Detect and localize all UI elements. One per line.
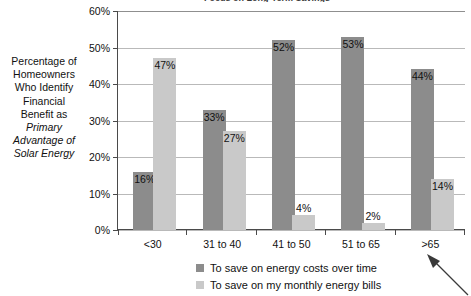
x-axis-label: 51 to 65	[326, 238, 395, 250]
bar-value-label: 4%	[296, 202, 311, 214]
y-axis-title: Percentage of Homeowners Who Identify Fi…	[2, 55, 86, 161]
bar-value-label: 2%	[366, 210, 381, 222]
callout-arrow-icon	[424, 252, 470, 296]
x-axis-label: <30	[118, 238, 187, 250]
bar-group: 33%27%	[187, 11, 256, 230]
y-axis-title-line-8: Solar Energy	[2, 147, 86, 160]
legend-item-0: To save on energy costs over time	[196, 259, 381, 276]
x-axis-label: 41 to 50	[257, 238, 326, 250]
bar[interactable]: 27%	[223, 131, 246, 230]
x-tick-mark	[256, 230, 257, 235]
y-axis-title-line-3: Who Identify	[2, 81, 86, 94]
legend-swatch-icon-1	[196, 281, 204, 289]
bar-value-label: 52%	[273, 41, 294, 53]
chart-legend: To save on energy costs over time To sav…	[196, 259, 381, 293]
bar-group: 53%2%	[326, 11, 395, 230]
x-tick-mark	[464, 230, 465, 235]
bar-chart: Focus on Long-Term Savings Percentage of…	[0, 0, 471, 296]
y-axis-title-line-2: Homeowners	[2, 68, 86, 81]
x-axis-labels: <3031 to 4041 to 5051 to 65>65	[118, 238, 465, 250]
y-tick-label-30: 30%	[89, 115, 110, 127]
bar-groups: 16%47%33%27%52%4%53%2%44%14%	[118, 11, 465, 230]
bar-value-label: 27%	[224, 132, 245, 144]
x-axis-label: 31 to 40	[187, 238, 256, 250]
plot-area: 0%10%20%30%40%50%60% 16%47%33%27%52%4%53…	[117, 11, 465, 230]
bar[interactable]: 2%	[362, 223, 385, 230]
x-tick-mark	[186, 230, 187, 235]
x-tick-mark	[395, 230, 396, 235]
y-tick-label-40: 40%	[89, 78, 110, 90]
bar-value-label: 33%	[204, 111, 225, 123]
y-tick-label-20: 20%	[89, 151, 110, 163]
legend-swatch-icon-0	[196, 264, 204, 272]
bar-value-label: 53%	[342, 38, 363, 50]
chart-title: Focus on Long-Term Savings	[117, 0, 417, 2]
gridline-0	[117, 230, 465, 231]
bar[interactable]: 14%	[431, 179, 454, 230]
bar[interactable]: 4%	[292, 215, 315, 230]
y-tick-label-10: 10%	[89, 188, 110, 200]
y-axis-title-line-1: Percentage of	[2, 55, 86, 68]
x-axis-label: >65	[396, 238, 465, 250]
legend-item-1: To save on my monthly energy bills	[196, 276, 381, 293]
bar-value-label: 44%	[412, 70, 433, 82]
bar-value-label: 47%	[154, 59, 175, 71]
y-tick-label-0: 0%	[95, 224, 110, 236]
legend-label-0: To save on energy costs over time	[210, 262, 377, 274]
bar-group: 16%47%	[118, 11, 187, 230]
y-axis-title-line-4: Financial	[2, 95, 86, 108]
y-axis-title-line-5: Benefit as	[2, 108, 86, 121]
y-tick-label-50: 50%	[89, 42, 110, 54]
bar-value-label: 14%	[432, 180, 453, 192]
legend-label-1: To save on my monthly energy bills	[210, 279, 381, 291]
bar-group: 44%14%	[396, 11, 465, 230]
y-axis-title-line-6: Primary	[2, 121, 86, 134]
x-tick-mark	[325, 230, 326, 235]
bar[interactable]: 53%	[341, 37, 364, 230]
bar-group: 52%4%	[257, 11, 326, 230]
y-axis-title-line-7: Advantage of	[2, 134, 86, 147]
bar[interactable]: 47%	[153, 58, 176, 230]
bar[interactable]: 52%	[272, 40, 295, 230]
bar-value-label: 16%	[134, 173, 155, 185]
x-tick-mark	[118, 230, 119, 235]
y-tick-label-60: 60%	[89, 5, 110, 17]
